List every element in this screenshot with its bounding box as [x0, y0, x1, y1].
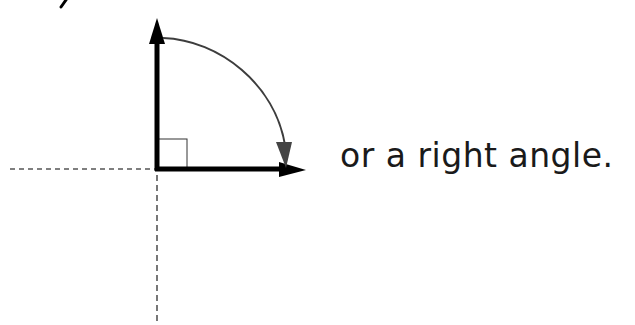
- caption-text: or a right angle.: [340, 136, 614, 175]
- rotation-arc: [163, 38, 285, 145]
- vertical-arrowhead-icon: [149, 18, 165, 44]
- cropped-glyph-fragment: [61, 0, 66, 7]
- right-angle-marker: [157, 139, 187, 169]
- horizontal-arrowhead-icon: [279, 162, 306, 177]
